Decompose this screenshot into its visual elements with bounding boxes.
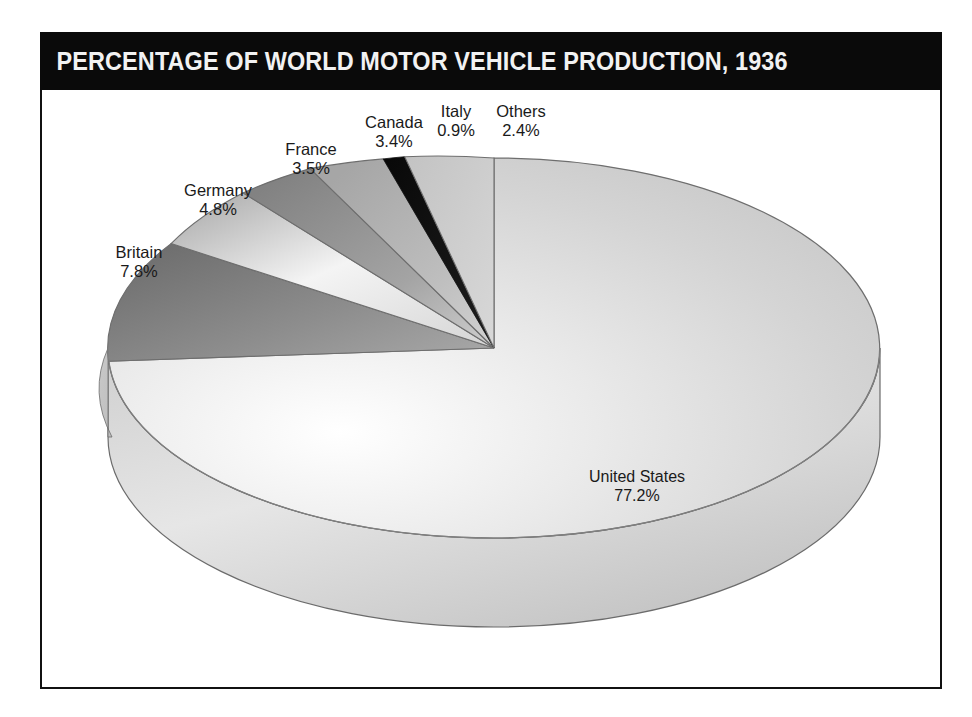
slice-label-italy: Italy 0.9% — [437, 102, 475, 140]
pie-chart-svg — [42, 90, 940, 687]
slice-label-name-france: France — [285, 140, 336, 159]
slice-label-value-britain: 7.8% — [116, 262, 163, 281]
slice-label-germany: Germany 4.8% — [184, 181, 252, 219]
slice-label-britain: Britain 7.8% — [116, 243, 163, 281]
slice-label-name-italy: Italy — [437, 102, 475, 121]
slice-label-value-france: 3.5% — [285, 159, 336, 178]
slice-label-name-others: Others — [496, 102, 546, 121]
slice-label-united-states: United States 77.2% — [589, 468, 685, 505]
chart-page: PERCENTAGE OF WORLD MOTOR VEHICLE PRODUC… — [0, 0, 972, 717]
slice-label-name-canada: Canada — [365, 113, 423, 132]
page-title: PERCENTAGE OF WORLD MOTOR VEHICLE PRODUC… — [40, 47, 788, 76]
title-banner: PERCENTAGE OF WORLD MOTOR VEHICLE PRODUC… — [40, 32, 942, 90]
slice-label-name-britain: Britain — [116, 243, 163, 262]
slice-label-name-united-states: United States — [589, 468, 685, 487]
slice-label-value-united-states: 77.2% — [589, 487, 685, 506]
pie-chart-area: United States 77.2% Britain 7.8% Germany… — [42, 90, 940, 687]
slice-label-value-canada: 3.4% — [365, 132, 423, 151]
slice-label-france: France 3.5% — [285, 140, 336, 178]
slice-label-canada: Canada 3.4% — [365, 113, 423, 151]
slice-label-value-others: 2.4% — [496, 121, 546, 140]
slice-label-value-italy: 0.9% — [437, 121, 475, 140]
slice-label-name-germany: Germany — [184, 181, 252, 200]
slice-label-value-germany: 4.8% — [184, 200, 252, 219]
slice-label-others: Others 2.4% — [496, 102, 546, 140]
